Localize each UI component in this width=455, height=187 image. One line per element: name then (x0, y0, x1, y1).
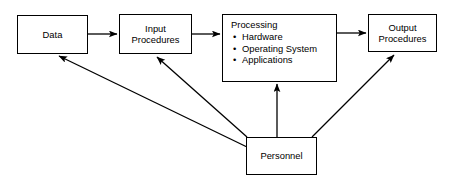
node-data-label: Data (43, 29, 63, 40)
node-processing-label: Processing (223, 15, 277, 31)
list-item-label: Hardware (242, 31, 283, 42)
node-data[interactable]: Data (17, 15, 88, 54)
node-input-procedures[interactable]: Input Procedures (119, 14, 192, 54)
bullet-dot-icon: • (233, 43, 236, 54)
node-output-procedures[interactable]: Output Procedures (368, 14, 437, 52)
node-output-procedures-label: Output Procedures (379, 22, 427, 45)
list-item: • Applications (233, 54, 317, 65)
node-input-procedures-label: Input Procedures (132, 23, 180, 46)
list-item-label: Operating System (242, 43, 317, 54)
node-personnel-label: Personnel (260, 150, 302, 161)
bullet-dot-icon: • (233, 31, 236, 42)
list-item-label: Applications (242, 54, 293, 65)
node-processing[interactable]: Processing • Hardware • Operating System… (222, 14, 337, 82)
list-item: • Hardware (233, 31, 317, 42)
list-item: • Operating System (233, 43, 317, 54)
diagram-canvas: Data Input Procedures Processing • Hardw… (0, 0, 455, 187)
processing-bullet-list: • Hardware • Operating System • Applicat… (223, 31, 317, 65)
edge-personnel-to-data (59, 56, 247, 147)
bullet-dot-icon: • (233, 54, 236, 65)
node-personnel[interactable]: Personnel (246, 137, 317, 175)
